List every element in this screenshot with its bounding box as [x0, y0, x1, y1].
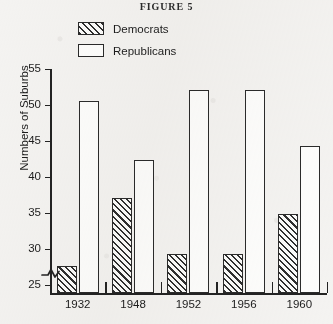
bar-democrats-1952 [167, 254, 187, 294]
y-tick-label: 55 [28, 62, 41, 75]
x-separator-tick [327, 282, 328, 293]
y-tick-label: 45 [28, 134, 41, 147]
y-axis-break-icon [41, 266, 61, 279]
x-tick-label: 1956 [216, 298, 271, 310]
y-tick-label: 40 [28, 170, 41, 183]
bar-republicans-1932 [79, 101, 99, 294]
legend-label-republicans: Republicans [113, 45, 176, 57]
y-tick-label: 50 [28, 98, 41, 111]
bar-group [50, 70, 105, 293]
chart-legend: Democrats Republicans [78, 19, 176, 63]
bar-democrats-1956 [223, 254, 243, 294]
legend-item-democrats: Democrats [78, 19, 176, 38]
x-separator-tick [105, 282, 106, 293]
bar-republicans-1956 [245, 90, 265, 294]
y-tick-label: 25 [28, 278, 41, 291]
legend-label-democrats: Democrats [113, 23, 169, 35]
plot-area: 25303540455055 19321948195219561960 [50, 70, 327, 295]
x-tick-label: 1932 [50, 298, 105, 310]
x-separator-tick [272, 282, 273, 293]
y-tick-label: 35 [28, 206, 41, 219]
bar-group [105, 70, 160, 293]
x-tick-label: 1948 [105, 298, 160, 310]
hatched-box-icon [78, 22, 104, 35]
bar-group [216, 70, 271, 293]
figure-title: FIGURE 5 [0, 1, 333, 12]
legend-item-republicans: Republicans [78, 41, 176, 60]
bar-republicans-1960 [300, 146, 320, 293]
empty-box-icon [78, 44, 104, 57]
bar-group [272, 70, 327, 293]
x-tick-label: 1952 [161, 298, 216, 310]
bar-group [161, 70, 216, 293]
bar-republicans-1948 [134, 160, 154, 294]
bar-democrats-1948 [112, 198, 132, 294]
x-separator-tick [216, 282, 217, 293]
y-tick-label: 30 [28, 242, 41, 255]
x-tick-label: 1960 [272, 298, 327, 310]
bar-republicans-1952 [189, 90, 209, 294]
bar-democrats-1960 [278, 214, 298, 293]
x-separator-tick [161, 282, 162, 293]
x-axis-line [50, 293, 327, 295]
